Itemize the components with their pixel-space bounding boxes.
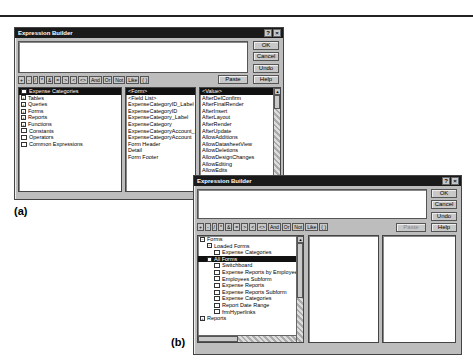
- operator-button[interactable]: ( ): [140, 76, 149, 84]
- operator-button[interactable]: Like: [305, 223, 318, 231]
- tree-item[interactable]: −All Forms: [198, 256, 303, 263]
- operator-button[interactable]: <: [249, 223, 256, 231]
- list-item[interactable]: AfterDelConfirm: [200, 95, 280, 102]
- paste-button[interactable]: Paste: [396, 223, 426, 232]
- vertical-scrollbar[interactable]: ▲: [296, 236, 303, 342]
- list-item[interactable]: AllowAdditions: [200, 134, 280, 141]
- help-icon[interactable]: ?: [264, 29, 272, 37]
- operator-button[interactable]: Or: [103, 76, 113, 84]
- paste-button[interactable]: Paste: [218, 75, 248, 84]
- expression-input[interactable]: [197, 189, 427, 219]
- tree-item[interactable]: Report Date Range: [198, 302, 303, 309]
- tree-item[interactable]: −Loaded Forms: [198, 243, 303, 250]
- operator-button[interactable]: <: [70, 76, 77, 84]
- tree-item[interactable]: Expense Categories: [198, 249, 303, 256]
- list-item[interactable]: AfterRender: [200, 121, 280, 128]
- help-button[interactable]: Help: [431, 223, 457, 232]
- operator-button[interactable]: Not: [292, 223, 304, 231]
- operator-button[interactable]: >: [62, 76, 69, 84]
- scroll-thumb[interactable]: [297, 243, 303, 298]
- list-item[interactable]: AfterInsert: [200, 108, 280, 115]
- list-item[interactable]: ExpenseCategoryAccount_Label: [126, 128, 195, 135]
- operator-button[interactable]: +: [197, 223, 204, 231]
- undo-button[interactable]: Undo: [431, 212, 457, 221]
- cancel-button[interactable]: Cancel: [431, 200, 457, 209]
- tree-item[interactable]: Employees Subform: [198, 276, 303, 283]
- list-item[interactable]: <Value>: [200, 88, 280, 95]
- help-button[interactable]: Help: [253, 75, 279, 84]
- operator-button[interactable]: >: [241, 223, 248, 231]
- expression-input[interactable]: [18, 41, 248, 73]
- tree-list[interactable]: −Forms−Loaded FormsExpense Categories−Al…: [197, 235, 304, 343]
- left-category-list[interactable]: Expense Categories+Tables+Queries+Forms+…: [18, 87, 122, 192]
- operator-button[interactable]: Or: [282, 223, 292, 231]
- operator-button[interactable]: -: [205, 223, 211, 231]
- tree-item[interactable]: Expense Categories: [198, 295, 303, 302]
- operator-button[interactable]: &: [225, 223, 232, 231]
- list-item[interactable]: +Forms: [19, 108, 121, 115]
- operator-button[interactable]: And: [268, 223, 281, 231]
- list-item[interactable]: <Field List>: [126, 95, 195, 102]
- list-item[interactable]: +Tables: [19, 95, 121, 102]
- list-item[interactable]: Operators: [19, 134, 121, 141]
- close-icon[interactable]: ×: [273, 29, 281, 37]
- operator-button[interactable]: =: [54, 76, 61, 84]
- tree-item[interactable]: −Forms: [198, 236, 303, 243]
- operator-button[interactable]: -: [26, 76, 32, 84]
- operator-button[interactable]: /: [212, 223, 217, 231]
- list-item[interactable]: Form Footer: [126, 154, 195, 161]
- operator-button[interactable]: Like: [126, 76, 139, 84]
- list-item[interactable]: <Form>: [126, 88, 195, 95]
- list-item[interactable]: AllowDesignChanges: [200, 154, 280, 161]
- list-item[interactable]: AllowEdits: [200, 167, 280, 174]
- help-icon[interactable]: ?: [442, 177, 450, 185]
- list-item[interactable]: Form Header: [126, 141, 195, 148]
- list-item[interactable]: +Reports: [19, 114, 121, 121]
- operator-button[interactable]: <>: [78, 76, 88, 84]
- undo-button[interactable]: Undo: [253, 64, 279, 73]
- list-item[interactable]: ExpenseCategoryAccount: [126, 134, 195, 141]
- list-item[interactable]: AllowDeletions: [200, 147, 280, 154]
- tree-item[interactable]: Expense Reports Subform: [198, 289, 303, 296]
- tree-item[interactable]: frmHyperlinks: [198, 309, 303, 316]
- operator-button[interactable]: <>: [257, 223, 267, 231]
- scroll-thumb[interactable]: [274, 95, 280, 109]
- list-item[interactable]: AfterFinalRender: [200, 101, 280, 108]
- operator-button[interactable]: *: [39, 76, 45, 84]
- list-item[interactable]: AllowDatasheetView: [200, 141, 280, 148]
- right-value-list[interactable]: [382, 235, 456, 343]
- operator-button[interactable]: ( ): [319, 223, 328, 231]
- operator-button[interactable]: =: [233, 223, 240, 231]
- list-item[interactable]: Expense Categories: [19, 88, 121, 95]
- operator-button[interactable]: +: [18, 76, 25, 84]
- list-item[interactable]: ExpenseCategoryID_Label: [126, 101, 195, 108]
- operator-button[interactable]: /: [33, 76, 38, 84]
- ok-button[interactable]: OK: [431, 189, 457, 198]
- list-item[interactable]: Constants: [19, 128, 121, 135]
- tree-item[interactable]: Expense Reports: [198, 282, 303, 289]
- list-item[interactable]: ExpenseCategoryID: [126, 108, 195, 115]
- hscroll-thumb[interactable]: [198, 336, 238, 342]
- list-item[interactable]: ExpenseCategory_Label: [126, 114, 195, 121]
- scroll-up-icon[interactable]: ▲: [274, 88, 281, 95]
- list-item[interactable]: AfterLayout: [200, 114, 280, 121]
- list-item[interactable]: ExpenseCategory: [126, 121, 195, 128]
- operator-button[interactable]: *: [218, 223, 224, 231]
- list-item[interactable]: AllowEditing: [200, 161, 280, 168]
- tree-item[interactable]: +Reports: [198, 315, 303, 322]
- operator-button[interactable]: And: [89, 76, 102, 84]
- list-item[interactable]: +Functions: [19, 121, 121, 128]
- middle-element-list[interactable]: [308, 235, 379, 343]
- close-icon[interactable]: ×: [451, 177, 459, 185]
- cancel-button[interactable]: Cancel: [253, 52, 279, 61]
- operator-button[interactable]: Not: [113, 76, 125, 84]
- tree-item[interactable]: Switchboard: [198, 262, 303, 269]
- list-item[interactable]: +Queries: [19, 101, 121, 108]
- tree-item[interactable]: Expense Reports by Employee: [198, 269, 303, 276]
- list-item[interactable]: Common Expressions: [19, 141, 121, 148]
- middle-element-list[interactable]: <Form><Field List>ExpenseCategoryID_Labe…: [125, 87, 196, 192]
- operator-button[interactable]: &: [46, 76, 53, 84]
- horizontal-scrollbar[interactable]: [198, 335, 296, 342]
- ok-button[interactable]: OK: [253, 41, 279, 50]
- list-item[interactable]: Detail: [126, 147, 195, 154]
